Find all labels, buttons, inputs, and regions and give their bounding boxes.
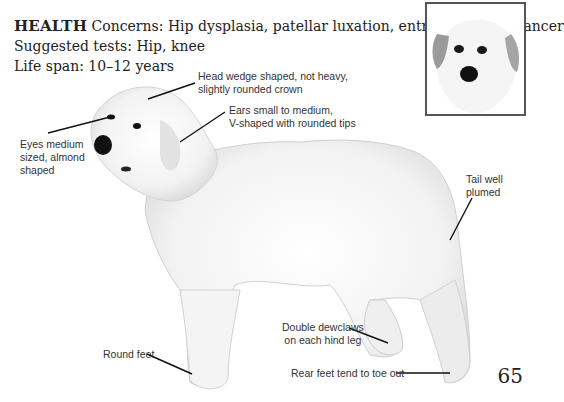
callout-ears-line-1: Ears small to medium, — [229, 104, 356, 117]
callout-head-line-1: Head wedge shaped, not heavy, — [198, 70, 348, 83]
dog-mouth — [121, 167, 131, 172]
callout-tail-line-1: Tail well — [466, 173, 503, 186]
callout-rear-feet-line-1: Rear feet tend to toe out — [291, 367, 404, 380]
callout-dewclaws-line-2: on each hind leg — [282, 334, 364, 347]
callout-head: Head wedge shaped, not heavy, slightly r… — [198, 70, 348, 96]
callout-eyes-line-2: sized, almond — [20, 151, 85, 164]
callout-dewclaws-line-1: Double dewclaws — [282, 321, 364, 334]
health-heading: HEALTH — [14, 17, 87, 35]
callout-tail-line-2: plumed — [466, 186, 503, 199]
dog-body — [91, 87, 470, 389]
callout-tail: Tail well plumed — [466, 173, 503, 199]
page-number: 65 — [498, 364, 523, 388]
callout-round-feet-line-1: Round feet — [103, 348, 154, 361]
callout-eyes: Eyes medium sized, almond shaped — [20, 138, 85, 177]
callout-ears-line-2: V-shaped with rounded tips — [229, 117, 356, 130]
dog-nose — [94, 135, 112, 155]
callout-rear-feet: Rear feet tend to toe out — [291, 367, 404, 380]
inset-eye-right — [477, 46, 487, 54]
callout-round-feet: Round feet — [103, 348, 154, 361]
inset-nose — [460, 66, 478, 82]
callout-dewclaws: Double dewclaws on each hind leg — [282, 321, 364, 347]
callout-eyes-line-1: Eyes medium — [20, 138, 85, 151]
callout-eyes-line-3: shaped — [20, 164, 85, 177]
inset-dog-head — [427, 4, 524, 114]
dog-eye-right — [133, 123, 141, 129]
inset-eye-left — [454, 45, 464, 53]
inset-head-portrait — [425, 2, 526, 116]
callout-head-line-2: slightly rounded crown — [198, 83, 348, 96]
callout-ears: Ears small to medium, V-shaped with roun… — [229, 104, 356, 130]
